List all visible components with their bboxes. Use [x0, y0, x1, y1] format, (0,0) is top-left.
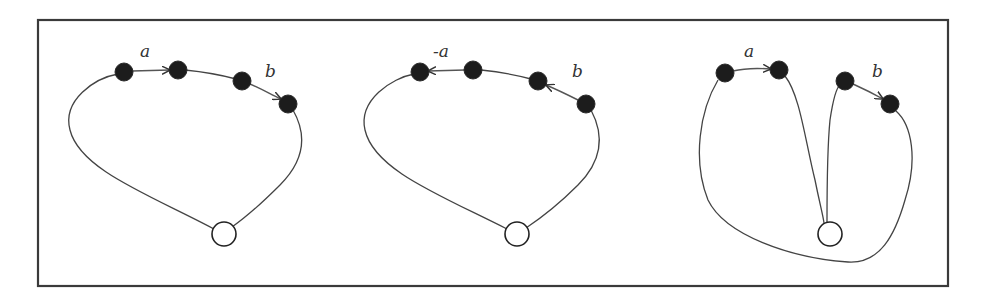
filled-node [577, 95, 595, 113]
edge-b-arrow [853, 84, 883, 99]
loop-curve [481, 70, 531, 79]
label-b: b [872, 61, 883, 81]
loop-curve [526, 110, 599, 228]
filled-node [770, 61, 788, 79]
loop-curve [364, 74, 507, 229]
label-b: b [572, 61, 583, 81]
loop-curve [69, 74, 214, 229]
label-a: a [140, 41, 150, 61]
panel-2: -a b [364, 41, 599, 246]
filled-node [881, 95, 899, 113]
loop-curve [785, 76, 824, 223]
filled-node [169, 61, 187, 79]
label-neg-a: -a [433, 41, 449, 61]
figure-frame [38, 20, 948, 286]
filled-node [233, 72, 251, 90]
loop-diagram-figure: a b -a b a b [0, 0, 989, 300]
panel-1: a b [69, 41, 302, 246]
edge-a-arrow [733, 68, 771, 71]
loop-curve [827, 85, 840, 222]
filled-node [836, 72, 854, 90]
filled-node [411, 63, 429, 81]
edge-b-arrow [250, 84, 281, 99]
label-b: b [265, 61, 276, 81]
loop-curve [699, 80, 912, 262]
filled-node [115, 63, 133, 81]
filled-node [529, 72, 547, 90]
open-base-node [212, 222, 236, 246]
edge-a-arrow [132, 70, 170, 71]
loop-curve [232, 110, 302, 227]
label-a: a [744, 41, 754, 61]
edge-neg-a-arrow [428, 70, 465, 71]
open-base-node [505, 222, 529, 246]
panel-3: a b [699, 41, 912, 262]
filled-node [716, 64, 734, 82]
loop-curve [185, 70, 236, 79]
open-base-node [818, 222, 842, 246]
filled-node [464, 61, 482, 79]
edge-b-arrow [546, 85, 578, 100]
filled-node [279, 95, 297, 113]
